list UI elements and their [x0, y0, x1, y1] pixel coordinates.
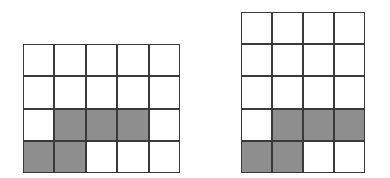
empty-cell-r1-c4 [150, 77, 179, 107]
shaded-cell-r3-c3 [335, 110, 364, 140]
empty-cell-r0-c0 [24, 45, 53, 75]
shaded-cell-r2-c2 [87, 110, 116, 140]
empty-cell-r1-c3 [335, 45, 364, 75]
empty-cell-r1-c0 [24, 77, 53, 107]
empty-cell-r3-c4 [150, 142, 179, 172]
shaded-cell-r2-c3 [118, 110, 147, 140]
empty-cell-r0-c3 [335, 13, 364, 43]
empty-cell-r2-c3 [335, 77, 364, 107]
empty-cell-r2-c2 [304, 77, 333, 107]
empty-cell-r0-c4 [150, 45, 179, 75]
empty-cell-r3-c0 [242, 110, 271, 140]
empty-cell-r0-c3 [118, 45, 147, 75]
empty-cell-r0-c2 [304, 13, 333, 43]
empty-cell-r0-c1 [55, 45, 84, 75]
empty-cell-r0-c0 [242, 13, 271, 43]
empty-cell-r1-c0 [242, 45, 271, 75]
shaded-cell-r3-c1 [55, 142, 84, 172]
shaded-cell-r2-c1 [55, 110, 84, 140]
grid-right-4x5 [241, 12, 365, 173]
empty-cell-r2-c0 [24, 110, 53, 140]
empty-cell-r2-c0 [242, 77, 271, 107]
empty-cell-r4-c3 [335, 142, 364, 172]
shaded-cell-r3-c1 [273, 110, 302, 140]
empty-cell-r1-c1 [55, 77, 84, 107]
empty-cell-r1-c3 [118, 77, 147, 107]
empty-cell-r3-c2 [87, 142, 116, 172]
grid-left-5x4 [23, 44, 180, 173]
shaded-cell-r3-c0 [24, 142, 53, 172]
empty-cell-r3-c3 [118, 142, 147, 172]
empty-cell-r0-c2 [87, 45, 116, 75]
empty-cell-r1-c2 [304, 45, 333, 75]
empty-cell-r2-c1 [273, 77, 302, 107]
empty-cell-r0-c1 [273, 13, 302, 43]
empty-cell-r2-c4 [150, 110, 179, 140]
empty-cell-r4-c2 [304, 142, 333, 172]
shaded-cell-r4-c1 [273, 142, 302, 172]
empty-cell-r1-c1 [273, 45, 302, 75]
empty-cell-r1-c2 [87, 77, 116, 107]
shaded-cell-r4-c0 [242, 142, 271, 172]
shaded-cell-r3-c2 [304, 110, 333, 140]
